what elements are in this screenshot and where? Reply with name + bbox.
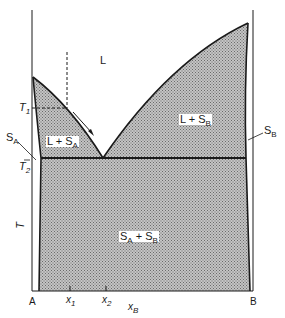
- region-label-solid-a-plus-solid-b: SA + SB: [119, 231, 159, 242]
- solid-b-leader-line: [248, 133, 263, 140]
- region-label-liquid: L: [100, 55, 106, 66]
- x-tick-label-x1: x1: [66, 295, 75, 305]
- region-label-liquid-plus-solid-a: L + SA: [46, 136, 79, 147]
- phase-label-solid-a: SA: [6, 132, 19, 143]
- region-liquid-plus-solid-b: [103, 23, 248, 158]
- x-tick-label-x2: x2: [102, 295, 111, 305]
- component-label-b: B: [250, 297, 257, 307]
- y-axis-label: T: [15, 222, 26, 229]
- component-label-a: A: [29, 297, 36, 307]
- solid-a-leader-line: [18, 142, 36, 160]
- x-axis-label: xB: [128, 302, 138, 312]
- region-label-liquid-plus-solid-b: L + SB: [179, 114, 212, 125]
- phase-label-solid-b: SB: [264, 125, 277, 136]
- region-solid-a-plus-solid-b: [39, 158, 250, 291]
- phase-diagram-canvas: [0, 0, 285, 318]
- temperature-label-t1: T1: [19, 102, 30, 113]
- temperature-label-t2: T2: [19, 161, 30, 172]
